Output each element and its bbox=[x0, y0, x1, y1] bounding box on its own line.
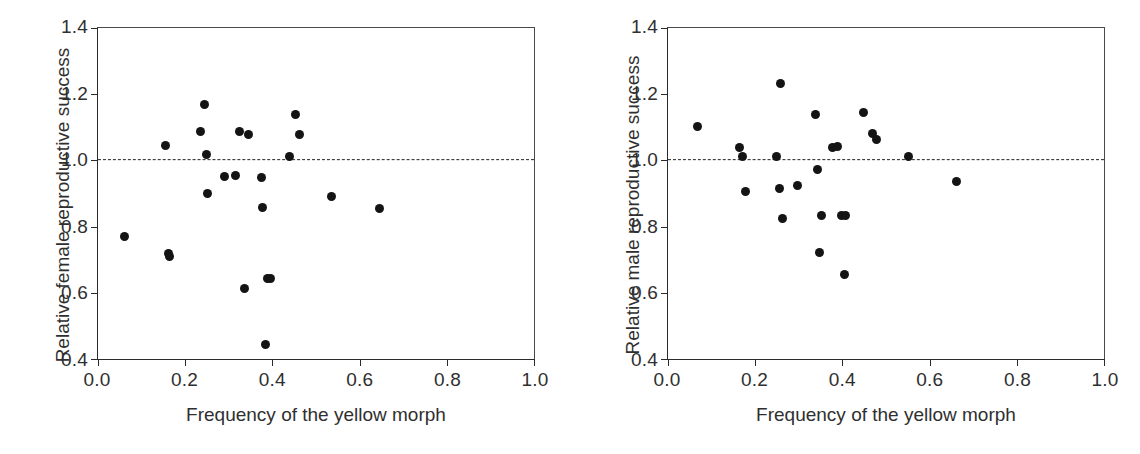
y-tick-label: 1.4 bbox=[61, 16, 88, 38]
data-point bbox=[161, 141, 170, 150]
x-tick bbox=[668, 359, 669, 366]
data-point bbox=[231, 171, 240, 180]
data-point bbox=[775, 184, 784, 193]
y-tick-label: 0.8 bbox=[61, 216, 88, 238]
y-tick bbox=[661, 227, 668, 228]
plot-area-left bbox=[98, 28, 534, 359]
x-tick-label: 0.0 bbox=[653, 369, 680, 391]
x-axis-title-left: Frequency of the yellow morph bbox=[97, 404, 535, 426]
x-tick-labels-right: 0.0 0.2 0.4 0.6 0.8 1.0 bbox=[667, 369, 1105, 395]
plot-frame-right bbox=[667, 27, 1105, 360]
data-point bbox=[244, 130, 253, 139]
y-tick bbox=[661, 28, 668, 29]
data-point bbox=[240, 284, 249, 293]
x-tick-label: 0.6 bbox=[346, 369, 373, 391]
y-tick-label: 1.2 bbox=[631, 83, 658, 105]
data-point bbox=[813, 165, 822, 174]
y-tick-labels-left: 0.4 0.6 0.8 1.0 1.2 1.4 bbox=[40, 27, 88, 360]
y-tick-label: 1.0 bbox=[631, 149, 658, 171]
x-tick-label: 0.2 bbox=[171, 369, 198, 391]
panel-male-reproductive-success: Relative male reproductive success 0.4 0… bbox=[570, 0, 1140, 454]
x-tick-label: 0.8 bbox=[1004, 369, 1031, 391]
y-tick bbox=[91, 227, 98, 228]
panel-female-reproductive-success: Relative female reproductive success 0.4… bbox=[0, 0, 570, 454]
plot-area-right bbox=[668, 28, 1104, 359]
reference-line-unity-left bbox=[98, 160, 534, 161]
x-tick-label: 1.0 bbox=[1091, 369, 1118, 391]
x-tick bbox=[930, 359, 931, 366]
data-point bbox=[165, 252, 174, 261]
x-tick bbox=[1104, 359, 1105, 366]
data-point bbox=[693, 122, 702, 131]
x-tick bbox=[755, 359, 756, 366]
data-point bbox=[817, 211, 826, 220]
y-tick bbox=[91, 94, 98, 95]
data-point bbox=[840, 270, 849, 279]
data-point bbox=[772, 152, 781, 161]
data-point bbox=[202, 150, 211, 159]
data-point bbox=[793, 181, 802, 190]
y-tick bbox=[91, 28, 98, 29]
data-point bbox=[375, 204, 384, 213]
figure-two-scatter-panels: Relative female reproductive success 0.4… bbox=[0, 0, 1140, 454]
data-point bbox=[261, 340, 270, 349]
y-tick bbox=[661, 293, 668, 294]
x-tick-labels-left: 0.0 0.2 0.4 0.6 0.8 1.0 bbox=[97, 369, 535, 395]
data-point bbox=[220, 172, 229, 181]
data-point bbox=[295, 130, 304, 139]
y-tick-label: 1.0 bbox=[61, 149, 88, 171]
x-tick-label: 0.2 bbox=[741, 369, 768, 391]
y-tick bbox=[91, 293, 98, 294]
y-tick-labels-right: 0.4 0.6 0.8 1.0 1.2 1.4 bbox=[610, 27, 658, 360]
data-point bbox=[735, 143, 744, 152]
data-point bbox=[327, 192, 336, 201]
x-tick bbox=[272, 359, 273, 366]
data-point bbox=[258, 203, 267, 212]
x-tick bbox=[360, 359, 361, 366]
x-axis-title-right: Frequency of the yellow morph bbox=[667, 404, 1105, 426]
data-point bbox=[952, 177, 961, 186]
y-tick-label: 0.6 bbox=[631, 282, 658, 304]
x-tick-label: 0.4 bbox=[829, 369, 856, 391]
x-tick-label: 0.4 bbox=[259, 369, 286, 391]
data-point bbox=[833, 142, 842, 151]
data-point bbox=[196, 127, 205, 136]
x-tick bbox=[98, 359, 99, 366]
data-point bbox=[200, 100, 209, 109]
y-tick-label: 1.2 bbox=[61, 83, 88, 105]
x-tick bbox=[447, 359, 448, 366]
data-point bbox=[120, 232, 129, 241]
data-point bbox=[841, 211, 850, 220]
x-tick bbox=[534, 359, 535, 366]
data-point bbox=[872, 135, 881, 144]
x-tick-label: 0.0 bbox=[83, 369, 110, 391]
data-point bbox=[815, 248, 824, 257]
reference-line-unity-right bbox=[668, 160, 1104, 161]
x-tick bbox=[842, 359, 843, 366]
y-tick bbox=[91, 160, 98, 161]
y-tick bbox=[661, 94, 668, 95]
data-point bbox=[257, 173, 266, 182]
x-tick bbox=[185, 359, 186, 366]
x-tick-label: 0.6 bbox=[916, 369, 943, 391]
x-tick-label: 1.0 bbox=[521, 369, 548, 391]
x-tick bbox=[1017, 359, 1018, 366]
plot-frame-left bbox=[97, 27, 535, 360]
data-point bbox=[778, 214, 787, 223]
data-point bbox=[741, 187, 750, 196]
y-tick-label: 1.4 bbox=[631, 16, 658, 38]
y-tick-label: 0.8 bbox=[631, 216, 658, 238]
data-point bbox=[776, 79, 785, 88]
y-tick-label: 0.4 bbox=[61, 349, 88, 371]
y-tick bbox=[661, 359, 668, 360]
x-tick-label: 0.8 bbox=[434, 369, 461, 391]
y-tick-label: 0.6 bbox=[61, 282, 88, 304]
data-point bbox=[811, 110, 820, 119]
y-tick bbox=[91, 359, 98, 360]
y-tick-label: 0.4 bbox=[631, 349, 658, 371]
data-point bbox=[291, 110, 300, 119]
y-tick bbox=[661, 160, 668, 161]
data-point bbox=[235, 127, 244, 136]
data-point bbox=[203, 189, 212, 198]
data-point bbox=[859, 108, 868, 117]
